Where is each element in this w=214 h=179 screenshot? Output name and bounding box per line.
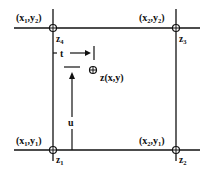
corner-marker-top-right bbox=[173, 25, 180, 32]
corner-label-bottom-left: (x1,y1) bbox=[16, 135, 42, 147]
interior-point-marker bbox=[90, 67, 97, 74]
z4-label: z4 bbox=[56, 34, 64, 45]
t-label: t bbox=[60, 48, 64, 59]
bilinear-grid-diagram: (x1,y2) (x2,y2) (x1,y1) (x2,y1) z4 z3 z1… bbox=[0, 0, 214, 179]
interior-point-label: z(x,y) bbox=[100, 72, 124, 84]
u-label: u bbox=[68, 117, 74, 128]
corner-marker-bottom-left bbox=[50, 147, 57, 154]
corner-label-top-right: (x2,y2) bbox=[139, 12, 165, 24]
corner-label-top-left: (x1,y2) bbox=[16, 12, 42, 24]
corner-marker-top-left bbox=[50, 25, 57, 32]
t-offset-indicator: t bbox=[53, 46, 94, 60]
z3-label: z3 bbox=[179, 34, 187, 45]
corner-label-bottom-right: (x2,y1) bbox=[139, 135, 165, 147]
z2-label: z2 bbox=[179, 155, 186, 166]
corner-marker-bottom-right bbox=[173, 147, 180, 154]
z1-label: z1 bbox=[56, 155, 63, 166]
u-offset-indicator: u bbox=[64, 67, 80, 150]
